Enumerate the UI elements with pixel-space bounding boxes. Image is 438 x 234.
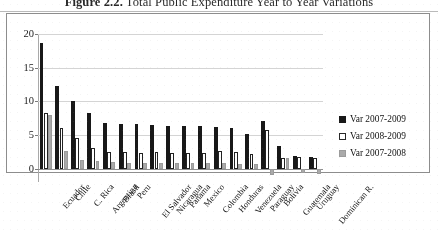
bar	[191, 163, 195, 168]
bar-group	[261, 34, 274, 182]
chart-legend: Var 2007-2009Var 2008-2009Var 2007-2008	[339, 112, 438, 163]
bar	[270, 169, 274, 176]
bar	[48, 115, 52, 168]
bar	[222, 163, 226, 168]
legend-item-label: Var 2007-2009	[350, 114, 406, 124]
bar	[297, 157, 301, 168]
legend-item: Var 2008-2009	[339, 129, 438, 143]
bar-group	[87, 34, 100, 182]
page-rule	[0, 11, 438, 12]
legend-item-label: Var 2008-2009	[350, 131, 406, 141]
y-axis-tick-label: 20	[10, 28, 34, 39]
legend-swatch-icon	[339, 150, 346, 157]
bar	[80, 160, 84, 169]
bar-group	[166, 34, 179, 182]
y-axis-tick-mark	[35, 34, 38, 35]
bar	[301, 169, 305, 173]
y-axis-tick-mark	[35, 135, 38, 136]
x-axis-labels: EcuadorChileC. RicaArgentinaBrasilPeruEl…	[38, 182, 338, 234]
y-axis-tick-label: 0	[10, 163, 34, 174]
bar	[238, 164, 242, 169]
figure-caption: Figure 2.2. Total Public Expenditure Yea…	[0, 0, 438, 10]
figure-caption-label: Figure 2.2.	[65, 0, 123, 9]
bar	[159, 163, 163, 168]
y-axis-tick-mark	[35, 68, 38, 69]
y-axis-tick-label: 10	[10, 95, 34, 106]
bar-group	[40, 34, 53, 182]
bar-group	[182, 34, 195, 182]
legend-item-label: Var 2007-2008	[350, 148, 406, 158]
bar-group	[293, 34, 306, 182]
bar	[206, 163, 210, 168]
legend-item: Var 2007-2008	[339, 146, 438, 160]
y-axis-tick-label: 5	[10, 129, 34, 140]
bar-group	[119, 34, 132, 182]
bar-group	[230, 34, 243, 182]
bar-group	[55, 34, 68, 182]
bar-group	[214, 34, 227, 182]
bar-group	[309, 34, 322, 182]
bar-group	[198, 34, 211, 182]
bar	[96, 161, 100, 168]
x-axis-label-text: Dominican R.	[336, 182, 375, 226]
plot-area: 05101520	[38, 34, 323, 182]
x-axis-label: Dominican R.	[336, 182, 375, 226]
bar	[317, 169, 321, 174]
bar	[254, 164, 258, 169]
chart-frame: 05101520 EcuadorChileC. RicaArgentinaBra…	[6, 13, 430, 173]
bar	[111, 162, 115, 168]
y-axis-tick-mark	[35, 101, 38, 102]
bar-group	[277, 34, 290, 182]
bar	[286, 158, 290, 168]
y-axis-tick-label: 15	[10, 62, 34, 73]
y-axis-tick-mark	[35, 169, 38, 170]
bar	[313, 158, 317, 168]
legend-item: Var 2007-2009	[339, 112, 438, 126]
bar-group	[150, 34, 163, 182]
bar-group	[245, 34, 258, 182]
figure-caption-text: Total Public Expenditure Year to Year Va…	[126, 0, 373, 9]
bar	[143, 163, 147, 168]
bar	[175, 163, 179, 168]
bar	[265, 130, 269, 168]
bar-group	[103, 34, 116, 182]
bar-group	[135, 34, 148, 182]
legend-swatch-icon	[339, 116, 346, 123]
bar-group	[71, 34, 84, 182]
bar	[127, 163, 131, 168]
legend-swatch-icon	[339, 133, 346, 140]
bar	[64, 151, 68, 168]
